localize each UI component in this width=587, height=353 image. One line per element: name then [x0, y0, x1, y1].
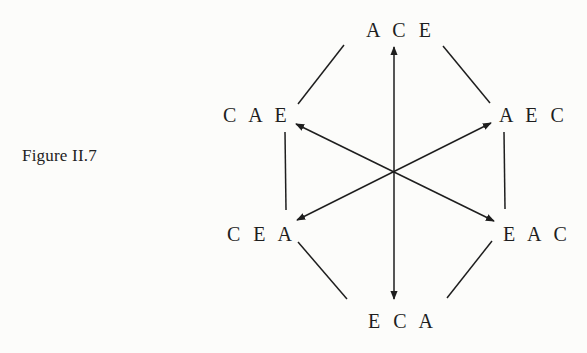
edge-cae-cea: [285, 132, 286, 210]
edge-aec-eac: [504, 132, 505, 209]
edge-eac-eca: [447, 241, 492, 298]
diagram-edges: [0, 0, 587, 353]
edge-ace-aec: [443, 46, 490, 103]
edge-ace-cae: [298, 45, 344, 104]
edge-cea-eca: [298, 242, 347, 299]
